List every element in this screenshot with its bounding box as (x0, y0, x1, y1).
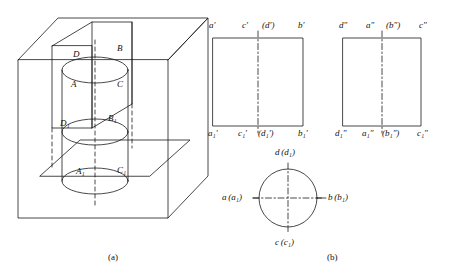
label-b1-prime: b₁′ (298, 128, 308, 138)
label-c-c1: c (c₁) (275, 237, 294, 247)
label-d-d1: d (d₁) (275, 147, 295, 157)
label-c1-prime: c₁′ (238, 128, 247, 138)
top-view-centerlines (253, 163, 323, 233)
label-A: A (71, 79, 77, 89)
label-b-b1: b (b₁) (328, 192, 348, 202)
label-a-prime: a′ (209, 20, 215, 30)
label-a1-dprime: a₁″ (362, 128, 373, 138)
label-c-prime: c′ (242, 20, 248, 30)
label-a1-prime: a₁′ (208, 128, 218, 138)
label-C: C (117, 79, 123, 89)
label-b-prime: b′ (298, 20, 304, 30)
label-D1: D₁ (60, 118, 70, 128)
label-a-a1: a (a₁) (222, 192, 242, 202)
label-C1: C₁ (117, 165, 126, 175)
label-d-prime: (d′) (262, 20, 274, 30)
label-b-dprime: (b″) (386, 20, 400, 30)
caption-a: (a) (108, 252, 118, 262)
caption-b: (b) (327, 252, 338, 262)
label-c1-dprime: c₁″ (417, 128, 428, 138)
label-a-dprime: a″ (366, 20, 374, 30)
label-d-dprime: d″ (339, 20, 347, 30)
label-B1: B₁ (108, 113, 117, 123)
label-D: D (73, 49, 80, 59)
label-d1-prime: (d₁′) (258, 128, 274, 138)
label-A1: A₁ (76, 166, 85, 176)
figure-root: D B A C D₁ B₁ A₁ C₁ a′ c′ (d′) b′ a₁′ c₁… (0, 0, 457, 276)
figure-drawing (0, 0, 457, 276)
label-c-dprime: c″ (419, 20, 427, 30)
label-b1-dprime: (b₁″) (382, 128, 399, 138)
label-d1-dprime: d₁″ (335, 128, 346, 138)
label-B: B (117, 43, 123, 53)
